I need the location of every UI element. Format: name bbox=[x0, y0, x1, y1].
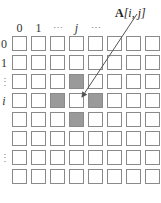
arrow-pointer bbox=[0, 0, 161, 203]
